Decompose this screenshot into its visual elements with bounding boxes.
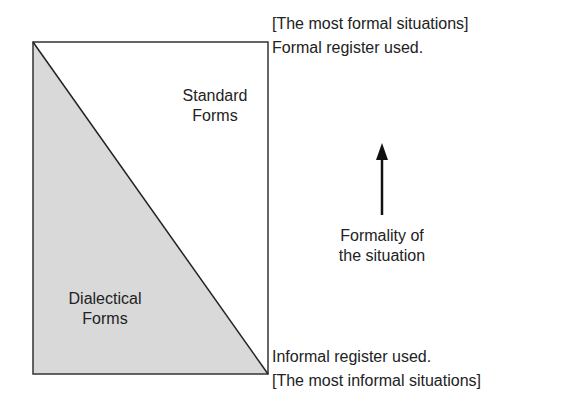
dialectical-line2: Forms	[50, 309, 160, 329]
formality-axis-label: Formality of the situation	[312, 226, 452, 266]
formal-situations-label: [The most formal situations] Formal regi…	[272, 14, 469, 58]
most-informal-label: [The most informal situations]	[272, 371, 481, 391]
dialectical-line1: Dialectical	[50, 289, 160, 309]
most-formal-label: [The most formal situations]	[272, 14, 469, 34]
arrow-up-icon	[376, 143, 388, 160]
axis-line1: Formality of	[312, 226, 452, 246]
standard-line2: Forms	[160, 106, 270, 126]
axis-line2: the situation	[312, 246, 452, 266]
formal-register-label: Formal register used.	[272, 38, 469, 58]
standard-line1: Standard	[160, 86, 270, 106]
informal-situations-label: Informal register used. [The most inform…	[272, 347, 481, 391]
dialectical-forms-label: Dialectical Forms	[50, 289, 160, 329]
informal-register-label: Informal register used.	[272, 347, 481, 367]
standard-forms-label: Standard Forms	[160, 86, 270, 126]
